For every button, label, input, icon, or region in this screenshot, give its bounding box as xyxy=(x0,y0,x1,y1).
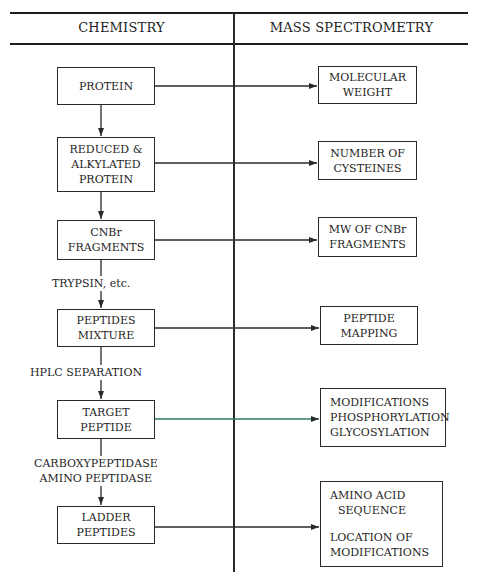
box-modifications: MODIFICATIONS PHOSPHORYLATION GLYCOSYLAT… xyxy=(320,388,446,447)
box-protein: PROTEIN xyxy=(57,67,155,105)
box-number-of-cysteines: NUMBER OF CYSTEINES xyxy=(318,141,417,180)
box-ladder-peptides: LADDER PEPTIDES xyxy=(57,506,155,544)
step-trypsin: TRYPSIN, etc. xyxy=(52,276,130,291)
box-mw-of-cnbr-fragments: MW OF CNBr FRAGMENTS xyxy=(318,217,417,257)
box-molecular-weight: MOLECULAR WEIGHT xyxy=(318,66,417,104)
box-reduced-alkylated-protein: REDUCED & ALKYLATED PROTEIN xyxy=(57,137,155,192)
step-peptidase: CARBOXYPEPTIDASE AMINO PEPTIDASE xyxy=(34,456,158,486)
box-amino-acid-sequence: AMINO ACID SEQUENCE LOCATION OF MODIFICA… xyxy=(320,481,443,567)
step-hplc-separation: HPLC SEPARATION xyxy=(30,365,142,380)
box-peptides-mixture: PEPTIDES MIXTURE xyxy=(57,309,155,347)
box-target-peptide: TARGET PEPTIDE xyxy=(57,400,155,439)
box-peptide-mapping: PEPTIDE MAPPING xyxy=(320,306,418,345)
box-cnbr-fragments: CNBr FRAGMENTS xyxy=(57,220,155,260)
